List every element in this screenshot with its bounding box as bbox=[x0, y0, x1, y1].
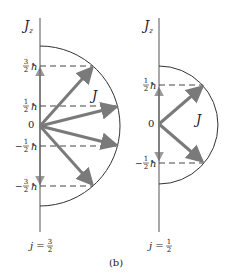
vector-m-neg-1-2 bbox=[40, 126, 116, 145]
svg-text:1: 1 bbox=[144, 155, 148, 163]
svg-text:2: 2 bbox=[167, 246, 171, 254]
level-label-1-2: 1 2 ħ bbox=[143, 77, 156, 93]
svg-text:3: 3 bbox=[24, 58, 28, 66]
vector-label: J bbox=[193, 112, 202, 127]
vector-label: J bbox=[89, 88, 98, 103]
vector-m-3-2 bbox=[40, 68, 92, 126]
svg-text:1: 1 bbox=[167, 238, 171, 246]
svg-text:1: 1 bbox=[24, 98, 28, 106]
origin-label: 0 bbox=[148, 118, 154, 129]
svg-text:3: 3 bbox=[24, 178, 28, 186]
svg-text:2: 2 bbox=[48, 246, 52, 254]
svg-text:−: − bbox=[15, 141, 23, 151]
j-value-label: j = 3 2 bbox=[28, 238, 53, 254]
level-label-3-2: 3 2 ħ bbox=[23, 58, 37, 74]
svg-text:−: − bbox=[135, 158, 143, 168]
svg-text:1: 1 bbox=[24, 138, 28, 146]
svg-text:j =: j = bbox=[147, 240, 164, 251]
svg-text:−: − bbox=[15, 181, 23, 191]
svg-text:2: 2 bbox=[24, 106, 28, 114]
level-label-neg-1-2: − 1 2 ħ bbox=[15, 138, 37, 154]
svg-text:2: 2 bbox=[144, 163, 148, 171]
axis-label: Jz bbox=[21, 18, 33, 35]
level-label-1-2: 1 2 ħ bbox=[23, 98, 37, 114]
figure-caption: (b) bbox=[109, 257, 123, 268]
svg-text:j =: j = bbox=[28, 240, 45, 251]
svg-text:ħ: ħ bbox=[31, 61, 37, 72]
vector-m-1-2 bbox=[40, 107, 116, 126]
origin-label: 0 bbox=[28, 119, 34, 130]
left-panel: Jz J 0 3 2 ħ 1 2 ħ − 1 2 ħ − 3 2 bbox=[15, 18, 120, 254]
angular-momentum-diagram: Jz J 0 3 2 ħ 1 2 ħ − 1 2 ħ − 3 2 bbox=[0, 0, 232, 276]
axis-label: Jz bbox=[141, 18, 153, 35]
right-panel: Jz J 0 1 2 ħ − 1 2 ħ j = 1 2 bbox=[135, 18, 218, 254]
svg-text:1: 1 bbox=[144, 77, 148, 85]
svg-text:ħ: ħ bbox=[31, 101, 37, 112]
svg-text:ħ: ħ bbox=[31, 181, 37, 192]
svg-text:3: 3 bbox=[48, 238, 52, 246]
vector-m-neg-3-2 bbox=[40, 126, 92, 184]
level-label-neg-3-2: − 3 2 ħ bbox=[15, 178, 37, 194]
svg-text:2: 2 bbox=[144, 85, 148, 93]
magnitude-arc bbox=[40, 46, 120, 206]
svg-text:ħ: ħ bbox=[150, 158, 156, 169]
svg-text:2: 2 bbox=[24, 66, 28, 74]
svg-text:2: 2 bbox=[24, 146, 28, 154]
svg-text:ħ: ħ bbox=[150, 80, 156, 91]
j-value-label: j = 1 2 bbox=[147, 238, 172, 254]
level-label-neg-1-2: − 1 2 ħ bbox=[135, 155, 156, 171]
magnitude-arc bbox=[159, 66, 218, 184]
svg-text:2: 2 bbox=[24, 186, 28, 194]
vector-m-neg-1-2 bbox=[159, 124, 202, 161]
svg-text:ħ: ħ bbox=[31, 141, 37, 152]
